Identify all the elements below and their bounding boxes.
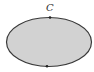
top-point [49,16,52,19]
label-c: C [46,3,54,13]
ellipse-c [7,18,92,67]
bottom-point [46,65,49,68]
